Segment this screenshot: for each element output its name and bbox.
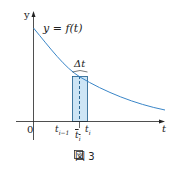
origin-label: 0 <box>27 124 33 135</box>
tick-left-label: ti−1 <box>55 124 69 136</box>
figure-caption: 図 3 <box>75 148 95 163</box>
y-axis-arrow-icon <box>32 11 36 17</box>
curve-label: y = f(t) <box>43 22 83 35</box>
tick-right-label: ti <box>85 124 91 136</box>
sample-point-label: ti <box>75 130 81 142</box>
function-curve <box>34 28 166 110</box>
delta-brace <box>73 71 88 73</box>
riemann-rectangle <box>73 77 88 122</box>
y-axis-label: y <box>24 9 30 20</box>
delta-label: Δt <box>74 58 85 69</box>
x-axis-label: t <box>162 123 166 134</box>
